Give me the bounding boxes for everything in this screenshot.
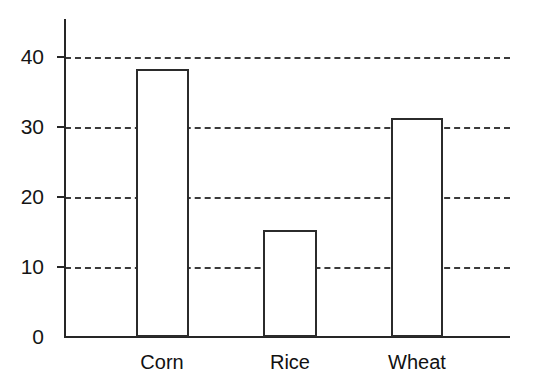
x-axis-label-wheat: Wheat — [367, 350, 467, 374]
bar-corn — [136, 69, 189, 337]
x-axis-label-corn: Corn — [112, 350, 212, 374]
bar-rice — [263, 230, 317, 337]
y-axis-line — [64, 19, 66, 338]
x-axis-label-rice: Rice — [240, 350, 340, 374]
y-axis-label-40: 40 — [0, 46, 44, 67]
bar-wheat — [391, 118, 443, 337]
gridline-20 — [65, 197, 510, 199]
gridline-40 — [65, 57, 510, 59]
bar-chart: 40 30 20 10 0 Corn Rice Wheat — [0, 0, 539, 388]
y-axis-label-20: 20 — [0, 186, 44, 207]
gridline-30 — [65, 127, 510, 129]
y-axis-label-30: 30 — [0, 116, 44, 137]
y-axis-label-0: 0 — [0, 326, 44, 347]
y-axis-label-10: 10 — [0, 256, 44, 277]
